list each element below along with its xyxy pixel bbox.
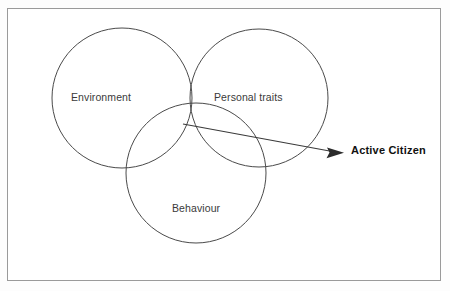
callout-arrow-head-icon [327,147,345,158]
venn-diagram-root: Environment Personal traits Behaviour Ac… [0,0,450,291]
venn-label-personal-traits: Personal traits [214,92,283,103]
callout-label-active-citizen: Active Citizen [351,145,426,156]
venn-circle-behaviour [126,103,266,243]
callout-arrow-line [183,124,335,152]
venn-label-behaviour: Behaviour [172,203,220,214]
venn-label-environment: Environment [71,92,131,103]
